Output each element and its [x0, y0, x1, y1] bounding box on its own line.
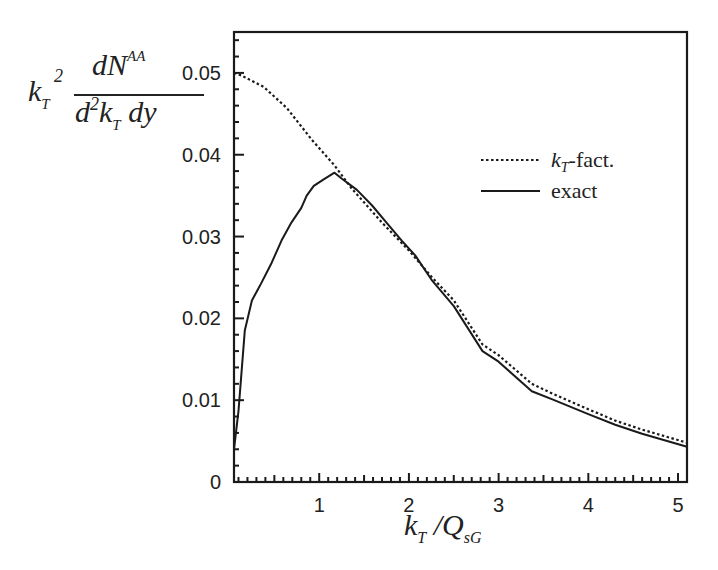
legend-label: exact: [551, 178, 597, 203]
y-tick-label: 0.02: [182, 307, 221, 329]
y-label-numerator: dNAA: [92, 48, 145, 82]
x-tick-label: 5: [672, 494, 683, 516]
x-tick-label: 3: [493, 494, 504, 516]
x-axis-label: kT /QsG: [404, 508, 482, 547]
plot-frame: [234, 32, 687, 482]
y-tick-label: 0.03: [182, 226, 221, 248]
x-tick-label: 4: [583, 494, 594, 516]
y-axis-label: kT2 dNAA d2kT dy: [22, 48, 202, 128]
y-tick-label: 0.04: [182, 144, 221, 166]
legend-label: kT-fact.: [551, 147, 614, 175]
y-tick-label: 0.01: [182, 389, 221, 411]
x-tick-label: 1: [314, 494, 325, 516]
y-label-denominator: d2kT dy: [75, 94, 157, 134]
y-tick-label: 0: [210, 471, 221, 493]
y-label-k: kT2: [28, 74, 50, 113]
series-line-ktfact: [234, 73, 687, 443]
